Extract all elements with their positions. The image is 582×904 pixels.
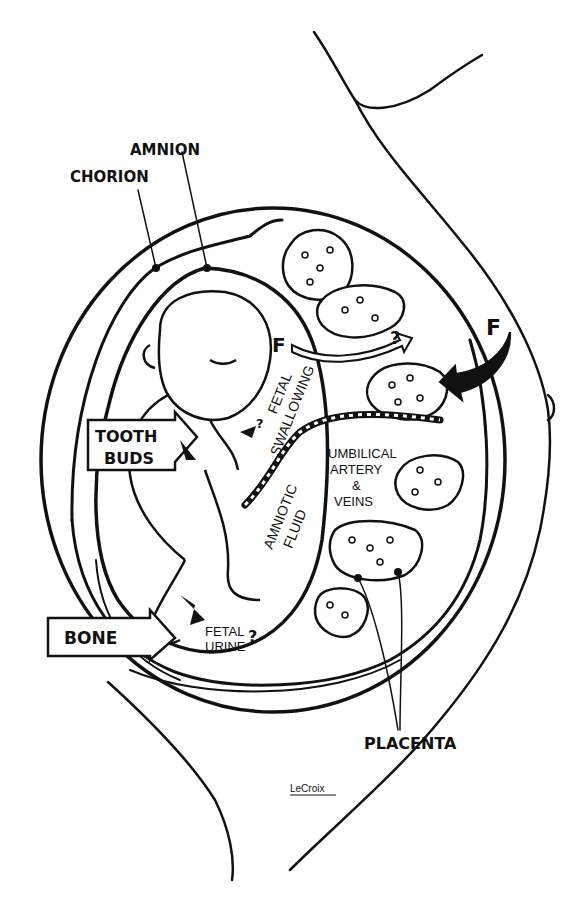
fluoride-right-label: F: [486, 315, 501, 340]
question-mark-upper: ?: [390, 327, 400, 348]
chorion-label: CHORION: [70, 168, 149, 186]
tooth-buds-label-line2: BUDS: [104, 449, 154, 468]
placenta-lobes: [283, 230, 463, 637]
fetal-swallowing-label: FETAL SWALLOWING: [250, 356, 317, 458]
fetus-diagram: TOOTH BUDS BONE F ? F FETAL SWALLOWING ?…: [0, 0, 582, 904]
amniotic-fluid-label: AMNIOTIC FLUID: [260, 482, 317, 558]
umbilical-line1: UMBILICAL: [328, 446, 397, 461]
bone-label: BONE: [64, 628, 117, 648]
umbilical-line2: ARTERY: [330, 462, 383, 477]
umbilical-label: UMBILICAL ARTERY & VEINS: [328, 446, 397, 509]
umbilical-line3: &: [352, 478, 361, 493]
amnion-label: AMNION: [130, 141, 200, 159]
swallowing-arrow-icon: [240, 426, 256, 438]
tooth-buds-callout: TOOTH BUDS: [88, 412, 197, 470]
placenta-label: PLACENTA: [364, 734, 457, 753]
fetal-urine-line1: FETAL: [205, 624, 245, 639]
umbilical-line4: VEINS: [334, 494, 373, 509]
fetal-urine-label: FETAL URINE ?: [205, 624, 257, 654]
bone-callout: BONE: [48, 595, 205, 660]
fluoride-arrow-icon: [440, 332, 510, 400]
question-mark-urine: ?: [248, 627, 257, 646]
fetal-urine-line2: URINE: [205, 639, 246, 654]
fluoride-left-label: F: [272, 333, 286, 357]
tooth-buds-label-line1: TOOTH: [95, 427, 157, 446]
question-mark-swallowing: ?: [256, 416, 264, 431]
artist-signature: LeCroix: [290, 783, 324, 794]
bone-arrow-icon: [180, 595, 205, 625]
chorion-membrane: [72, 220, 282, 520]
